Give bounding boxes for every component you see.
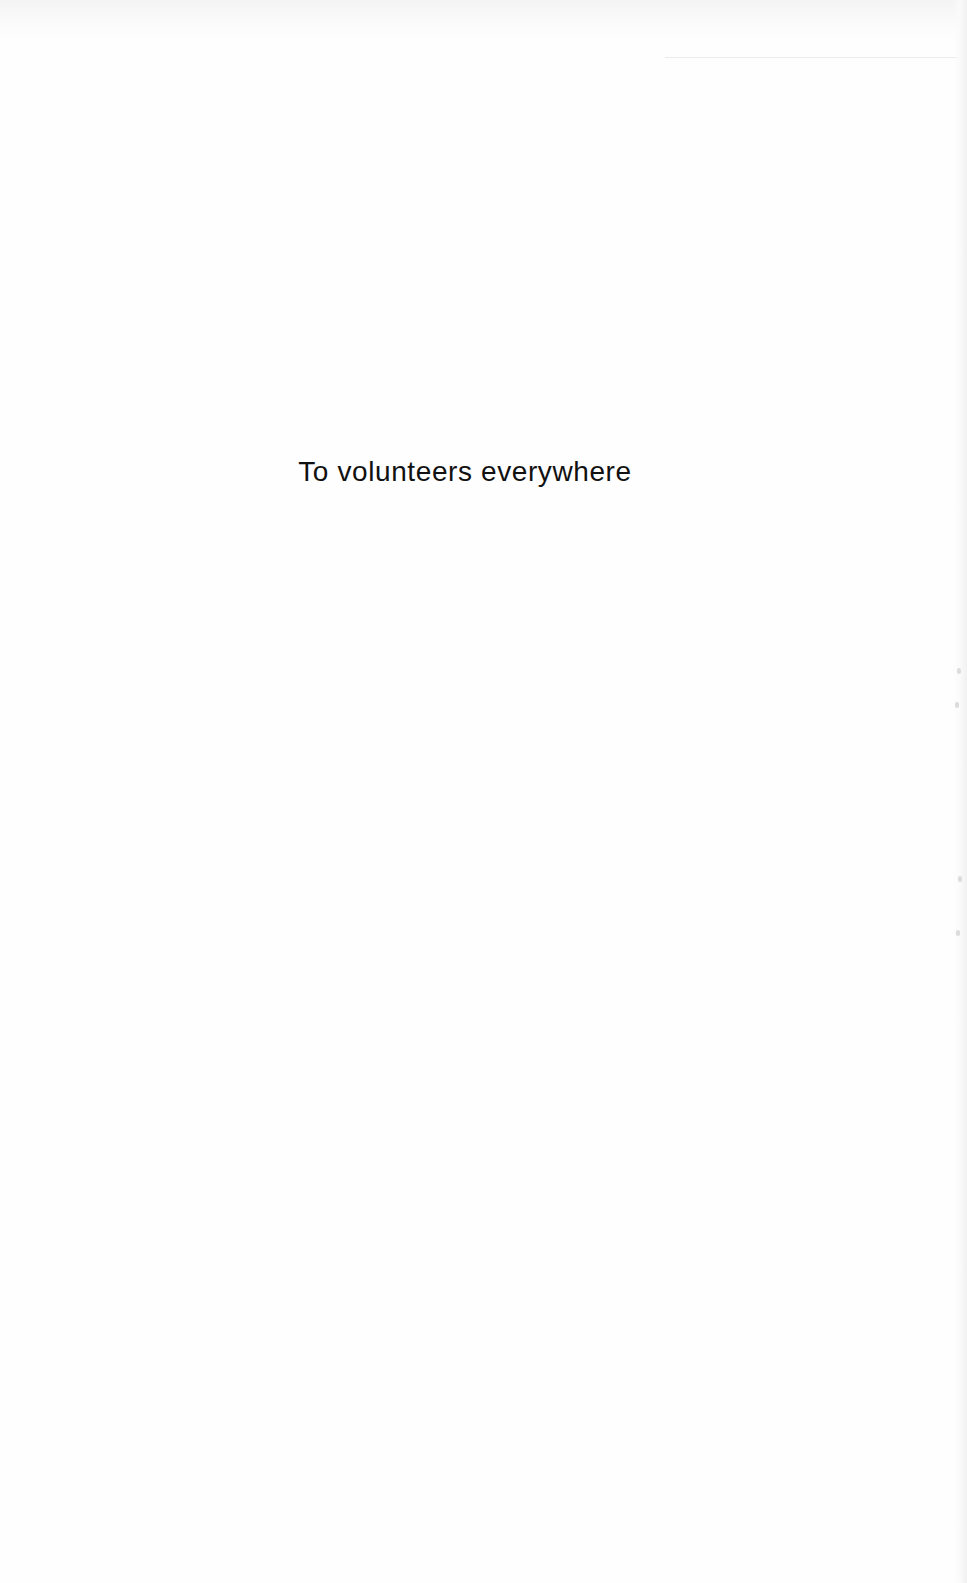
scan-speck [958,876,962,882]
dedication-text: To volunteers everywhere [0,452,930,492]
scan-speck [957,668,961,674]
dedication-page: To volunteers everywhere [0,0,967,1583]
scan-artifact-rule [665,57,960,58]
scan-edge-right [953,0,967,1583]
scan-speck [955,702,959,708]
scan-edge-top [0,0,967,40]
scan-speck [956,930,960,936]
